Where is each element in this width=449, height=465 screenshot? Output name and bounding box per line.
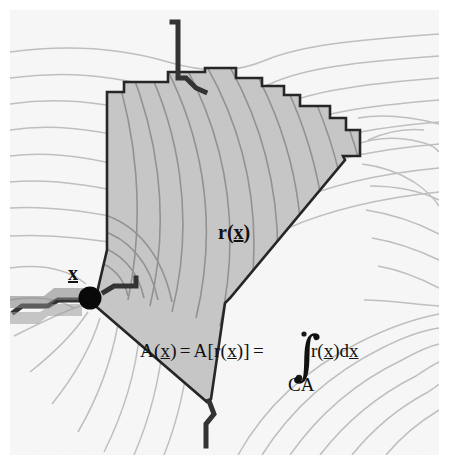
formula-mid-close: )] — [237, 340, 250, 361]
integrand-expression: r(x)dx — [311, 341, 358, 360]
formula-equals-1: = — [177, 340, 194, 361]
formula-mid: A[r( — [194, 340, 228, 361]
formula-lhs-close: ) — [170, 340, 177, 361]
integral-limit-label: CA — [288, 375, 314, 394]
formula-lhs: A( — [140, 340, 160, 361]
integrand-var: x — [324, 340, 334, 361]
formula-mid-var: x — [227, 340, 237, 361]
flow-distance-var: x — [234, 221, 244, 243]
integrand-close: )d — [333, 340, 349, 361]
formula-lhs-var: x — [160, 340, 170, 361]
outlet-point-label: x — [68, 263, 78, 283]
flow-distance-label: r(x) — [218, 222, 250, 242]
flow-distance-base: r( — [218, 221, 234, 243]
integrand-differential-var: x — [349, 340, 359, 361]
catchment-area-formula: A(x)=A[r(x)]= — [140, 341, 267, 360]
catchment-figure: r(x) x A(x)=A[r(x)]= ∫ r(x)dx CA — [0, 0, 449, 465]
integrand-base: r( — [311, 340, 324, 361]
formula-equals-2: = — [250, 340, 267, 361]
flow-distance-close: ) — [244, 221, 251, 243]
